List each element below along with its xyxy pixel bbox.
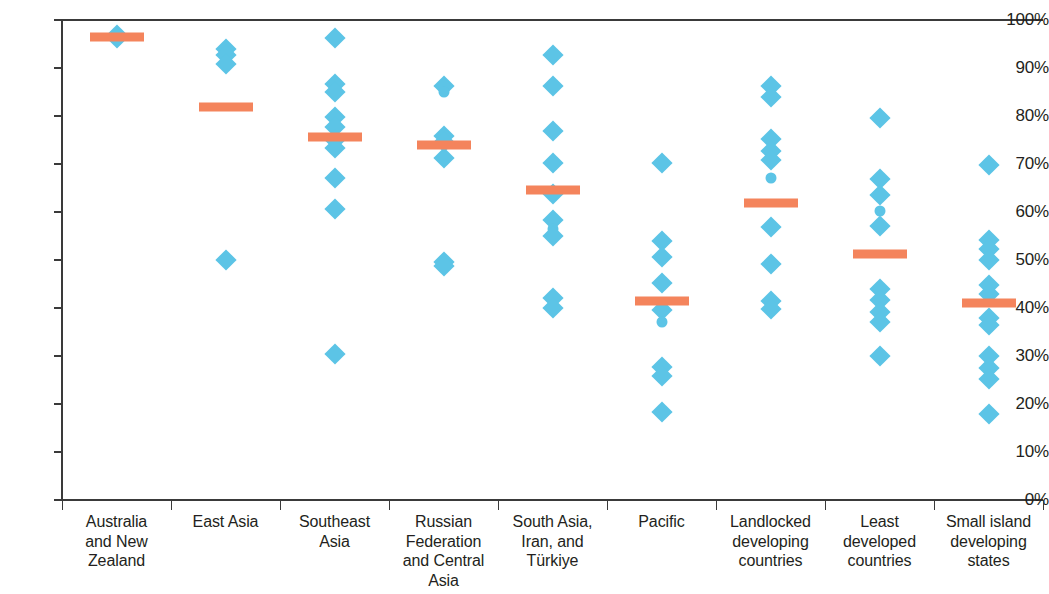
y-tick-mark xyxy=(54,355,62,357)
x-category-label-line: Zealand xyxy=(62,551,171,571)
data-point xyxy=(433,147,454,168)
x-category-label: Leastdevelopedcountries xyxy=(825,512,934,571)
x-tick-mark xyxy=(498,500,499,510)
mean-bar xyxy=(962,298,1016,307)
x-category-label-line: and New xyxy=(62,532,171,552)
scatter-chart: 0%10%20%30%40%50%60%70%80%90%100% Austra… xyxy=(0,0,1049,594)
x-category-label-line: Türkiye xyxy=(498,551,607,571)
x-category-label: Australiaand NewZealand xyxy=(62,512,171,571)
y-tick-mark xyxy=(54,67,62,69)
data-point xyxy=(978,403,999,424)
mean-bar xyxy=(199,103,253,112)
data-point xyxy=(869,216,890,237)
data-point xyxy=(656,316,667,327)
x-category-label-line: countries xyxy=(825,551,934,571)
data-point xyxy=(215,249,236,270)
x-category-label: Pacific xyxy=(607,512,716,532)
y-tick-label: 60% xyxy=(997,203,1049,220)
x-tick-mark xyxy=(934,500,935,510)
x-tick-mark xyxy=(389,500,390,510)
mean-bar xyxy=(308,132,362,141)
x-tick-mark xyxy=(825,500,826,510)
y-tick-mark xyxy=(54,403,62,405)
data-point xyxy=(324,199,345,220)
x-tick-mark xyxy=(716,500,717,510)
x-category-label: SoutheastAsia xyxy=(280,512,389,551)
x-category-label-line: countries xyxy=(716,551,825,571)
data-point xyxy=(542,44,563,65)
data-point xyxy=(760,254,781,275)
y-tick-label: 70% xyxy=(997,155,1049,172)
y-tick-label: 50% xyxy=(997,251,1049,268)
data-point xyxy=(651,246,672,267)
data-point xyxy=(542,121,563,142)
y-tick-label: 20% xyxy=(997,395,1049,412)
mean-bar xyxy=(526,186,580,195)
data-point xyxy=(760,217,781,238)
x-tick-mark xyxy=(62,500,63,510)
x-category-label-line: Australia xyxy=(62,512,171,532)
y-tick-mark xyxy=(54,307,62,309)
data-point xyxy=(651,152,672,173)
y-tick-label: 100% xyxy=(997,11,1049,28)
data-point xyxy=(869,185,890,206)
data-point xyxy=(651,402,672,423)
x-category-label-line: South Asia, xyxy=(498,512,607,532)
x-category-label: East Asia xyxy=(171,512,280,532)
x-category-label-line: Asia xyxy=(389,571,498,591)
y-tick-label: 90% xyxy=(997,59,1049,76)
x-category-label-line: developing xyxy=(934,532,1043,552)
x-category-label-line: Southeast xyxy=(280,512,389,532)
x-category-label-line: Asia xyxy=(280,532,389,552)
data-point xyxy=(324,167,345,188)
x-axis-line xyxy=(62,499,1043,501)
mean-bar xyxy=(744,198,798,207)
x-category-label-line: states xyxy=(934,551,1043,571)
x-category-label: Landlockeddevelopingcountries xyxy=(716,512,825,571)
data-point xyxy=(869,108,890,129)
x-tick-mark xyxy=(280,500,281,510)
x-category-label-line: Landlocked xyxy=(716,512,825,532)
y-tick-mark xyxy=(54,211,62,213)
data-point xyxy=(542,75,563,96)
x-category-label-line: Least xyxy=(825,512,934,532)
y-tick-mark xyxy=(54,115,62,117)
data-point xyxy=(651,272,672,293)
x-category-label-line: Small island xyxy=(934,512,1043,532)
x-tick-mark xyxy=(171,500,172,510)
data-point xyxy=(324,28,345,49)
x-category-label-line: Russian xyxy=(389,512,498,532)
x-category-label-line: developing xyxy=(716,532,825,552)
mean-bar xyxy=(853,250,907,259)
data-point xyxy=(542,226,563,247)
x-category-label-line: developed xyxy=(825,532,934,552)
data-point xyxy=(542,152,563,173)
data-point xyxy=(978,154,999,175)
x-category-label-line: Pacific xyxy=(607,512,716,532)
x-category-label-line: East Asia xyxy=(171,512,280,532)
x-tick-mark xyxy=(607,500,608,510)
data-point xyxy=(324,343,345,364)
data-point xyxy=(869,346,890,367)
y-tick-label: 10% xyxy=(997,443,1049,460)
mean-bar xyxy=(417,141,471,150)
mean-bar xyxy=(90,32,144,41)
x-category-label-line: Federation xyxy=(389,532,498,552)
data-point xyxy=(765,173,776,184)
y-tick-mark xyxy=(54,163,62,165)
data-point xyxy=(438,87,449,98)
x-category-label: South Asia,Iran, andTürkiye xyxy=(498,512,607,571)
x-category-label-line: and Central xyxy=(389,551,498,571)
y-tick-mark xyxy=(54,451,62,453)
y-tick-mark xyxy=(54,19,62,21)
x-tick-mark xyxy=(1043,500,1044,510)
mean-bar xyxy=(635,297,689,306)
y-tick-label: 30% xyxy=(997,347,1049,364)
x-category-label: Small islanddevelopingstates xyxy=(934,512,1043,571)
x-category-label-line: Iran, and xyxy=(498,532,607,552)
x-category-label: RussianFederationand CentralAsia xyxy=(389,512,498,590)
y-tick-mark xyxy=(54,499,62,501)
y-tick-label: 80% xyxy=(997,107,1049,124)
plot-top-border xyxy=(62,19,1043,21)
y-tick-label: 0% xyxy=(997,491,1049,508)
